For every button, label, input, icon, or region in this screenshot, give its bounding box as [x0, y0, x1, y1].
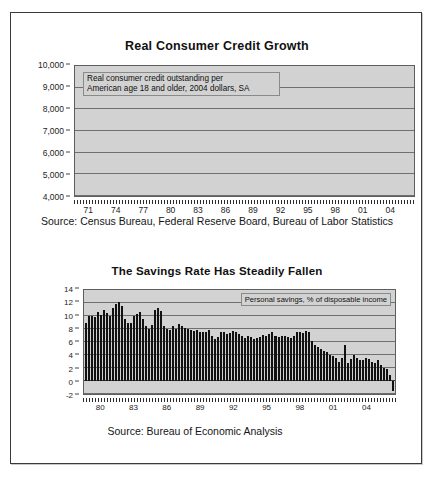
x-axis-tick-label: 95 [262, 403, 271, 412]
y-axis-tick-mark [66, 130, 70, 131]
y-axis-tick-mark [75, 327, 79, 328]
x-axis-tick-label: 80 [96, 403, 105, 412]
x-axis-tick-label: 92 [276, 205, 285, 215]
y-axis-tick-mark [66, 152, 70, 153]
y-axis-tick-label: 0 [69, 377, 79, 386]
x-axis-tick-label: 01 [358, 205, 367, 215]
chart2-x-tick-rail [83, 398, 396, 402]
chart2-y-axis-labels: -202468101214 [21, 289, 79, 395]
x-axis-tick-label: 98 [295, 403, 304, 412]
x-axis-tick-label: 04 [385, 205, 394, 215]
bar-fill [392, 381, 394, 391]
y-axis-tick-label: 12 [64, 298, 79, 307]
y-axis-tick-mark [66, 108, 70, 109]
y-axis-tick-mark [75, 394, 79, 395]
y-axis-tick-label: -2 [66, 391, 79, 400]
chart2-source-note: Source: Bureau of Economic Analysis [0, 425, 391, 437]
chart2-plot-area: Personal savings, % of disposable income [83, 289, 396, 395]
y-axis-tick-mark [66, 64, 70, 65]
y-axis-tick-label: 10,000 [38, 60, 70, 70]
y-axis-tick-mark [75, 314, 79, 315]
y-axis-tick-mark [66, 86, 70, 87]
chart1-x-tick-rail [74, 200, 415, 204]
x-axis-tick-label: 71 [84, 205, 93, 215]
y-axis-tick-label: 14 [64, 285, 79, 294]
chart1-y-axis-labels: 4,0005,0006,0007,0008,0009,00010,000 [21, 65, 70, 197]
x-axis-tick-label: 83 [193, 205, 202, 215]
x-axis-tick-label: 83 [129, 403, 138, 412]
y-axis-tick-mark [66, 196, 70, 197]
chart-real-consumer-credit-growth: Real Consumer Credit Growth 4,0005,0006,… [21, 39, 413, 231]
y-axis-tick-mark [75, 301, 79, 302]
y-axis-tick-label: 8 [69, 324, 79, 333]
y-axis-tick-mark [75, 288, 79, 289]
bar [392, 290, 395, 394]
chart1-annotation: Real consumer credit outstanding per Ame… [83, 72, 280, 96]
x-axis-tick-label: 98 [331, 205, 340, 215]
x-axis-tick-label: 77 [138, 205, 147, 215]
x-axis-tick-label: 74 [111, 205, 120, 215]
y-axis-tick-label: 7,000 [43, 126, 70, 136]
y-axis-tick-label: 8,000 [43, 104, 70, 114]
y-axis-tick-mark [75, 354, 79, 355]
document-page-frame: Real Consumer Credit Growth 4,0005,0006,… [10, 12, 422, 464]
x-axis-tick-label: 04 [362, 403, 371, 412]
y-axis-tick-mark [75, 380, 79, 381]
y-axis-tick-label: 9,000 [43, 82, 70, 92]
y-axis-tick-label: 6 [69, 338, 79, 347]
chart-savings-rate: The Savings Rate Has Steadily Fallen -20… [21, 265, 413, 455]
chart2-annotation: Personal savings, % of disposable income [241, 293, 391, 306]
y-axis-tick-label: 4,000 [43, 192, 70, 202]
x-axis-tick-label: 86 [162, 403, 171, 412]
y-axis-tick-mark [75, 367, 79, 368]
x-axis-tick-label: 89 [248, 205, 257, 215]
x-axis-tick-label: 01 [329, 403, 338, 412]
y-axis-tick-label: 6,000 [43, 148, 70, 158]
y-axis-tick-label: 4 [69, 351, 79, 360]
y-axis-tick-label: 10 [64, 311, 79, 320]
y-axis-tick-mark [75, 341, 79, 342]
chart2-title: The Savings Rate Has Steadily Fallen [21, 265, 413, 277]
x-axis-tick-label: 89 [196, 403, 205, 412]
x-axis-tick-label: 95 [303, 205, 312, 215]
y-axis-tick-label: 5,000 [43, 170, 70, 180]
x-axis-tick-label: 80 [166, 205, 175, 215]
chart1-source-note: Source: Census Bureau, Federal Reserve B… [21, 215, 413, 227]
x-axis-tick-label: 86 [221, 205, 230, 215]
chart1-plot-area: Real consumer credit outstanding per Ame… [74, 65, 415, 197]
y-axis-tick-label: 2 [69, 364, 79, 373]
x-axis-tick-label: 92 [229, 403, 238, 412]
y-axis-tick-mark [66, 174, 70, 175]
chart1-title: Real Consumer Credit Growth [21, 39, 413, 53]
